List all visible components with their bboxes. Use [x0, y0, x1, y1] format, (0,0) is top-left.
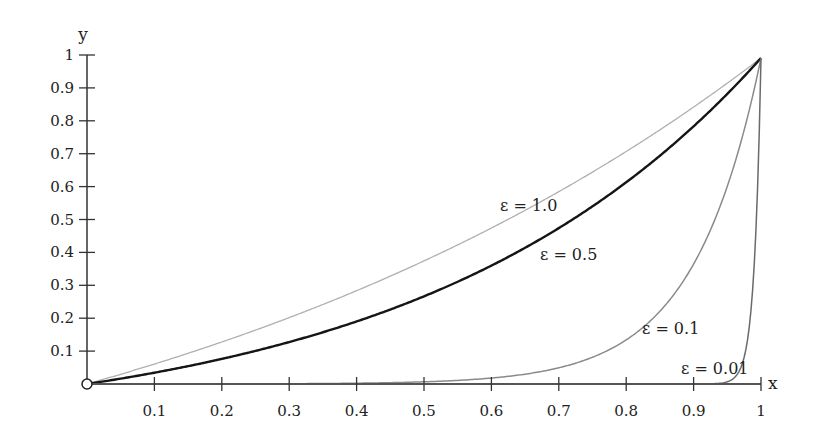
- y-tick-label: 0.8: [50, 112, 74, 130]
- x-tick-label: 0.5: [412, 402, 436, 420]
- y-tick-label: 0.1: [50, 342, 74, 360]
- y-tick-label: 0.7: [50, 145, 74, 163]
- x-tick-label: 0.6: [479, 402, 503, 420]
- x-tick-label: 0.7: [547, 402, 571, 420]
- y-tick-label: 0.6: [50, 178, 74, 196]
- y-axis-label: y: [77, 24, 88, 44]
- x-tick-label: 0.8: [614, 402, 638, 420]
- y-tick-label: 0.9: [50, 79, 74, 97]
- x-tick-label: 0.2: [210, 402, 234, 420]
- x-axis-label: x: [768, 373, 778, 393]
- y-tick-label: 1: [64, 46, 74, 64]
- y-tick-label: 0.2: [50, 309, 74, 327]
- label-eps-0-01: ε = 0.01: [681, 359, 749, 378]
- chart: 0.10.20.30.40.50.60.70.80.910.10.20.30.4…: [0, 0, 818, 446]
- y-tick-label: 0.4: [50, 243, 74, 261]
- ticks: 0.10.20.30.40.50.60.70.80.910.10.20.30.4…: [50, 46, 766, 420]
- label-eps-0-5: ε = 0.5: [540, 245, 597, 264]
- x-tick-label: 0.9: [682, 402, 706, 420]
- y-tick-label: 0.3: [50, 276, 74, 294]
- x-tick-label: 0.4: [345, 402, 369, 420]
- label-eps-0-1: ε = 0.1: [642, 319, 699, 338]
- label-eps-1-0: ε = 1.0: [500, 196, 557, 215]
- origin-marker: [82, 379, 92, 389]
- x-tick-label: 1: [756, 402, 766, 420]
- y-tick-label: 0.5: [50, 211, 74, 229]
- x-tick-label: 0.3: [277, 402, 301, 420]
- x-tick-label: 0.1: [142, 402, 166, 420]
